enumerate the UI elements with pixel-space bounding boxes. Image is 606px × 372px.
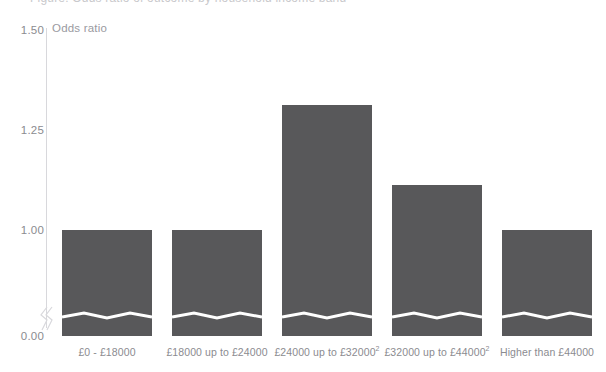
bar-income-higher-than-44000 [502,230,592,336]
x-axis-label-superscript: 2 [376,345,380,352]
x-axis-label-0: £0 - £18000 [52,345,162,358]
x-axis-label-superscript: 2 [486,345,490,352]
x-axis-label-text: £0 - £18000 [78,346,135,358]
bar-income-24000-32000 [282,105,372,336]
bar-income-0-18000 [62,230,152,336]
odds-ratio-bar-chart: Figure: Odds ratio of outcome by househo… [0,0,606,372]
plot-area: Odds ratio 1.50 1.25 1.00 0.00 [0,0,606,372]
bar-income-18000-24000 [172,230,262,336]
bar-break-icon [392,311,482,320]
bar-series [0,0,606,372]
x-axis-label-text: £24000 up to £32000 [274,346,375,358]
x-axis-label-text: £18000 up to £24000 [166,346,267,358]
bar-break-icon [62,311,152,320]
x-axis-label-2: £24000 up to £320002 [270,345,384,358]
bar-break-icon [172,311,262,320]
bar-break-icon [502,311,592,320]
x-axis-label-4: Higher than £44000 [492,345,602,358]
bar-income-32000-44000 [392,185,482,336]
x-axis-label-text: £32000 up to £44000 [384,346,485,358]
x-axis-label-3: £32000 up to £440002 [380,345,494,358]
bar-break-icon [282,311,372,320]
x-axis-label-1: £18000 up to £24000 [160,345,274,358]
x-axis-label-text: Higher than £44000 [500,346,594,358]
